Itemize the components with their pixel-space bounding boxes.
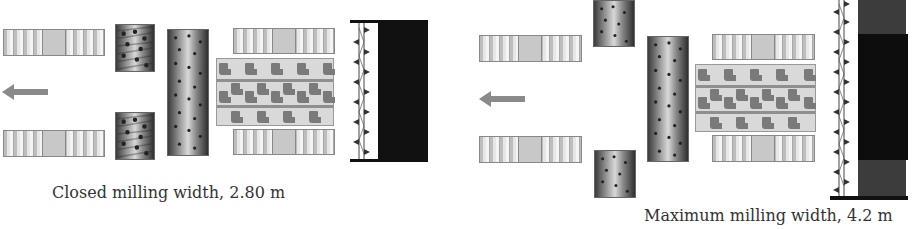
front-track-lower xyxy=(3,130,105,157)
front-track-upper xyxy=(3,29,105,56)
front-track-upper xyxy=(479,35,582,62)
moldboard xyxy=(350,20,430,162)
maximum-width-caption: Maximum milling width, 4.2 m xyxy=(644,206,893,225)
side-drum-upper xyxy=(115,24,155,72)
tooth-holder-frame xyxy=(216,58,334,126)
side-drum-lower xyxy=(594,150,636,198)
closed-width-caption: Closed milling width, 2.80 m xyxy=(52,183,285,202)
rear-track-lower xyxy=(233,129,335,155)
main-milling-drum xyxy=(167,29,209,156)
direction-arrow-icon xyxy=(479,89,525,109)
rear-track-upper xyxy=(712,34,815,60)
side-drum-lower xyxy=(115,112,155,160)
rear-track-lower xyxy=(712,135,815,162)
tooth-holder-frame xyxy=(695,64,816,132)
main-milling-drum xyxy=(647,36,689,162)
rear-track-upper xyxy=(233,28,335,54)
side-drum-upper xyxy=(593,0,635,47)
front-track-lower xyxy=(479,136,582,163)
moldboard xyxy=(830,0,910,200)
direction-arrow-icon xyxy=(2,82,48,102)
